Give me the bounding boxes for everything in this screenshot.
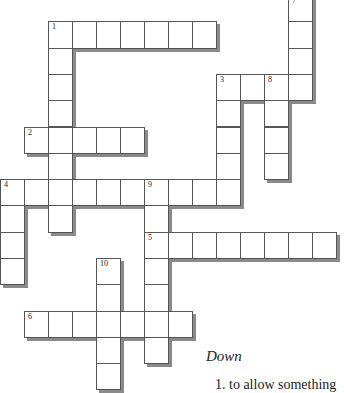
crossword-cell[interactable] <box>48 74 73 101</box>
clue-down-1: 1. to allow something <box>215 377 336 393</box>
crossword-cell[interactable] <box>48 311 73 338</box>
clue-number: 3 <box>220 76 224 84</box>
crossword-cell[interactable] <box>72 21 97 48</box>
crossword-cell[interactable] <box>120 21 145 48</box>
crossword-cell[interactable] <box>48 100 73 127</box>
down-clues-heading: Down <box>206 348 242 365</box>
crossword-cell[interactable] <box>48 127 73 154</box>
crossword-cell[interactable] <box>96 179 121 206</box>
crossword-cell[interactable] <box>72 127 97 154</box>
clue-number: 7 <box>292 0 296 5</box>
crossword-cell[interactable] <box>48 205 73 232</box>
crossword-cell[interactable] <box>264 153 289 180</box>
crossword-cell[interactable] <box>0 205 25 232</box>
crossword-cell[interactable] <box>192 179 217 206</box>
crossword-cell[interactable]: 8 <box>264 74 289 101</box>
crossword-cell[interactable] <box>144 205 169 232</box>
crossword-cell[interactable]: 5 <box>144 232 169 259</box>
crossword-cell[interactable] <box>216 100 241 127</box>
crossword-cell[interactable] <box>48 153 73 180</box>
crossword-cell[interactable] <box>192 21 217 48</box>
crossword-cell[interactable] <box>168 311 193 338</box>
crossword-cell[interactable]: 7 <box>288 0 313 22</box>
crossword-cell[interactable] <box>240 232 265 259</box>
crossword-cell[interactable] <box>312 232 337 259</box>
crossword-cell[interactable] <box>168 179 193 206</box>
crossword-cell[interactable] <box>288 48 313 75</box>
crossword-cell[interactable] <box>216 153 241 180</box>
clue-number: 6 <box>28 313 32 321</box>
crossword-cell[interactable] <box>0 258 25 285</box>
crossword-cell[interactable] <box>288 21 313 48</box>
crossword-cell[interactable] <box>168 21 193 48</box>
crossword-cell[interactable]: 3 <box>216 74 241 101</box>
crossword-cell[interactable] <box>168 232 193 259</box>
crossword-cell[interactable] <box>144 258 169 285</box>
crossword-cell[interactable] <box>264 127 289 154</box>
crossword-cell[interactable] <box>96 337 121 364</box>
clue-number: 5 <box>148 234 152 242</box>
crossword-cell[interactable] <box>288 74 313 101</box>
crossword-cell[interactable] <box>120 179 145 206</box>
clue-number: 9 <box>148 181 152 189</box>
crossword-cell[interactable] <box>96 284 121 311</box>
crossword-cell[interactable] <box>96 21 121 48</box>
crossword-cell[interactable] <box>144 311 169 338</box>
crossword-cell[interactable] <box>144 284 169 311</box>
crossword-cell[interactable] <box>240 74 265 101</box>
crossword-cell[interactable]: 1 <box>48 21 73 48</box>
crossword-cell[interactable] <box>264 100 289 127</box>
crossword-cell[interactable] <box>72 179 97 206</box>
clue-number: 8 <box>268 76 272 84</box>
crossword-cell[interactable]: 9 <box>144 179 169 206</box>
crossword-cell[interactable] <box>48 48 73 75</box>
crossword-cell[interactable] <box>144 21 169 48</box>
crossword-cell[interactable] <box>120 127 145 154</box>
clue-number: 1 <box>52 23 56 31</box>
crossword-cell[interactable]: 10 <box>96 258 121 285</box>
clue-number: 4 <box>4 181 8 189</box>
crossword-cell[interactable] <box>288 232 313 259</box>
crossword-cell[interactable] <box>216 179 241 206</box>
crossword-cell[interactable] <box>96 311 121 338</box>
crossword-cell[interactable] <box>96 127 121 154</box>
crossword-cell[interactable] <box>72 311 97 338</box>
crossword-grid: 12384956710 <box>0 0 344 393</box>
crossword-cell[interactable] <box>144 337 169 364</box>
crossword-cell[interactable] <box>0 232 25 259</box>
crossword-cell[interactable] <box>120 311 145 338</box>
crossword-cell[interactable] <box>216 232 241 259</box>
crossword-cell[interactable]: 4 <box>0 179 25 206</box>
crossword-cell[interactable] <box>96 363 121 390</box>
crossword-cell[interactable] <box>24 179 49 206</box>
crossword-cell[interactable] <box>48 179 73 206</box>
crossword-cell[interactable]: 6 <box>24 311 49 338</box>
crossword-cell[interactable]: 2 <box>24 127 49 154</box>
crossword-cell[interactable] <box>192 232 217 259</box>
crossword-cell[interactable] <box>264 232 289 259</box>
clue-number: 2 <box>28 129 32 137</box>
crossword-cell[interactable] <box>216 127 241 154</box>
clue-number: 10 <box>100 260 108 268</box>
